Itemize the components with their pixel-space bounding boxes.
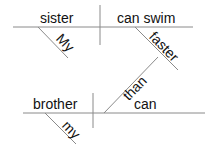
subject-bottom: brother [33, 97, 77, 111]
predicate-bottom: can [134, 97, 157, 111]
predicate-top: can swim [117, 11, 175, 25]
subject-top: sister [40, 11, 73, 25]
diagram-lines [0, 0, 214, 153]
